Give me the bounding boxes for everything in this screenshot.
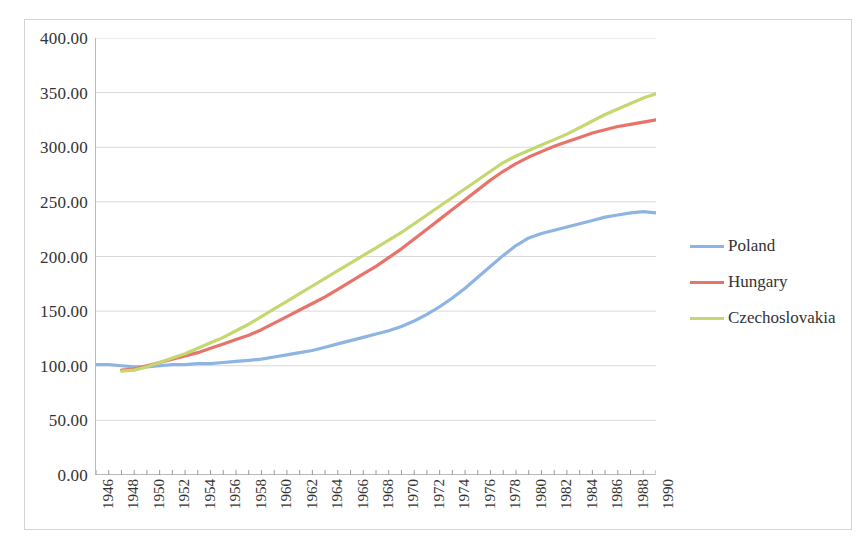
- series-line-poland: [96, 212, 656, 367]
- legend-label: Czechoslovakia: [728, 308, 836, 328]
- x-axis-tick-label: 1986: [610, 479, 625, 509]
- x-axis-tick-label: 1988: [636, 479, 651, 509]
- x-axis-tick-label: 1968: [381, 479, 396, 509]
- legend-item[interactable]: Poland: [690, 228, 850, 264]
- x-axis-tick-label: 1958: [254, 479, 269, 509]
- legend-color-swatch: [690, 245, 724, 248]
- x-axis-tick-label: 1984: [585, 479, 600, 509]
- x-axis-tick-label: 1974: [457, 479, 472, 509]
- x-axis-tick-label: 1982: [559, 479, 574, 509]
- y-axis-tick-label: 0.00: [57, 467, 88, 484]
- legend-item[interactable]: Czechoslovakia: [690, 300, 850, 336]
- legend-color-swatch: [690, 281, 724, 284]
- plot-canvas: [96, 38, 656, 475]
- legend-label: Poland: [728, 236, 775, 256]
- x-axis-tick-label: 1964: [330, 479, 345, 509]
- x-axis-tick-label: 1980: [534, 479, 549, 509]
- y-axis-tick-label: 200.00: [40, 248, 88, 265]
- plot-area: [95, 38, 655, 475]
- y-axis-tick-label: 400.00: [40, 30, 88, 47]
- x-axis-tick-label: 1948: [126, 479, 141, 509]
- series-line-hungary: [121, 120, 656, 370]
- x-axis-tick-label: 1966: [356, 479, 371, 509]
- y-axis-tick-label: 50.00: [49, 412, 88, 429]
- x-axis-tick-label: 1956: [228, 479, 243, 509]
- y-axis-tick-label: 300.00: [40, 139, 88, 156]
- line-chart: 0.0050.00100.00150.00200.00250.00300.003…: [0, 0, 864, 553]
- x-axis-tick-label: 1970: [406, 479, 421, 509]
- x-axis-tick-label: 1962: [305, 479, 320, 509]
- x-axis-tick-label: 1978: [508, 479, 523, 509]
- legend-color-swatch: [690, 317, 724, 320]
- legend-item[interactable]: Hungary: [690, 264, 850, 300]
- y-axis-tick-label: 150.00: [40, 303, 88, 320]
- x-axis-tick-label: 1990: [661, 479, 676, 509]
- y-axis-tick-label: 250.00: [40, 193, 88, 210]
- x-axis-labels: 1946194819501952195419561958196019621964…: [95, 479, 655, 549]
- x-axis-tick-label: 1972: [432, 479, 447, 509]
- chart-legend: PolandHungaryCzechoslovakia: [690, 228, 850, 336]
- x-axis-tick-label: 1950: [152, 479, 167, 509]
- y-axis-labels: 0.0050.00100.00150.00200.00250.00300.003…: [24, 38, 88, 475]
- x-axis-tick-label: 1946: [101, 479, 116, 509]
- x-axis-tick-label: 1960: [279, 479, 294, 509]
- x-axis-tick-label: 1952: [177, 479, 192, 509]
- x-axis-tick-label: 1976: [483, 479, 498, 509]
- y-axis-tick-label: 100.00: [40, 357, 88, 374]
- y-axis-tick-label: 350.00: [40, 84, 88, 101]
- legend-label: Hungary: [728, 272, 787, 292]
- x-axis-tick-label: 1954: [203, 479, 218, 509]
